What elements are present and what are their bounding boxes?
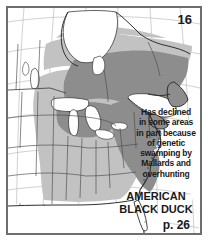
range-note-line: swamping by <box>132 148 200 158</box>
range-note-line: in part because <box>132 128 200 138</box>
lake-michigan <box>69 110 79 136</box>
species-name-line: BLACK DUCK <box>112 203 200 216</box>
species-name-line: AMERICAN <box>112 190 200 203</box>
page-reference[interactable]: p. 26 <box>163 218 190 232</box>
james-bay <box>93 56 105 75</box>
range-note-line: of genetic <box>132 138 200 148</box>
range-map-figure: 16 Has declined in some areas in part be… <box>0 0 208 241</box>
map-frame: 16 Has declined in some areas in part be… <box>6 6 202 235</box>
range-note-line: overhunting <box>132 169 200 179</box>
range-note-line: in some areas <box>132 117 200 127</box>
species-name: AMERICAN BLACK DUCK <box>112 190 200 216</box>
plate-number: 16 <box>178 12 192 27</box>
range-note: Has declined in some areas in part becau… <box>132 107 200 179</box>
lake-superior <box>51 98 89 112</box>
range-note-line: Has declined <box>132 107 200 117</box>
lake-ontario <box>111 123 127 130</box>
range-note-line: Mallards and <box>132 158 200 168</box>
